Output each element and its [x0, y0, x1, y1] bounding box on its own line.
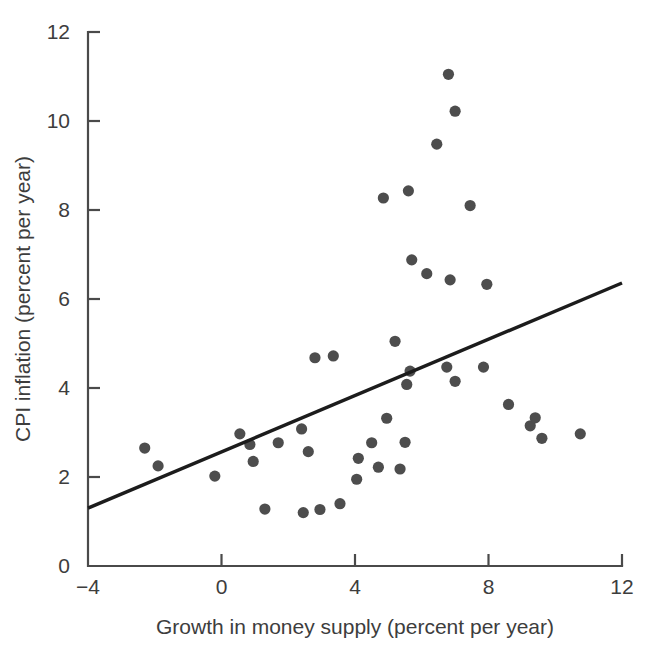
- data-point-40: [530, 412, 541, 423]
- data-point-20: [381, 413, 392, 424]
- y-tick-label-0: 0: [58, 554, 70, 577]
- data-point-0: [139, 442, 150, 453]
- data-point-2: [209, 471, 220, 482]
- data-point-5: [248, 456, 259, 467]
- y-tick-label-8: 8: [58, 198, 70, 221]
- x-tick-label-8: 8: [483, 575, 495, 598]
- data-point-30: [441, 361, 452, 372]
- data-point-10: [303, 446, 314, 457]
- data-point-28: [421, 268, 432, 279]
- data-points-group: [139, 69, 586, 519]
- data-point-15: [351, 474, 362, 485]
- data-point-41: [536, 433, 547, 444]
- data-point-6: [259, 503, 270, 514]
- x-tick-label-0: 0: [216, 575, 228, 598]
- y-axis-tick-labels: 024681012: [47, 20, 71, 577]
- data-point-12: [314, 504, 325, 515]
- data-point-24: [401, 379, 412, 390]
- data-point-1: [152, 460, 163, 471]
- data-point-22: [394, 463, 405, 474]
- data-point-11: [309, 352, 320, 363]
- data-point-38: [503, 399, 514, 410]
- data-point-13: [328, 350, 339, 361]
- data-point-19: [378, 192, 389, 203]
- data-point-21: [389, 336, 400, 347]
- x-tick-label--4: −4: [76, 575, 100, 598]
- y-axis-title: CPI inflation (percent per year): [11, 156, 34, 442]
- axis-lines: [88, 32, 622, 566]
- data-point-17: [366, 437, 377, 448]
- scatter-plot-figure: 024681012 −404812 CPI inflation (percent…: [0, 0, 649, 658]
- y-tick-label-10: 10: [47, 109, 70, 132]
- x-tick-label-12: 12: [610, 575, 633, 598]
- data-point-36: [478, 361, 489, 372]
- data-point-8: [296, 423, 307, 434]
- x-axis-title: Growth in money supply (percent per year…: [156, 615, 554, 638]
- data-point-37: [481, 279, 492, 290]
- data-point-14: [334, 498, 345, 509]
- data-point-35: [465, 200, 476, 211]
- y-axis-ticks: [88, 121, 100, 477]
- data-point-31: [443, 69, 454, 80]
- x-axis-ticks: [222, 554, 489, 566]
- x-tick-label-4: 4: [349, 575, 361, 598]
- data-point-3: [234, 428, 245, 439]
- data-point-34: [450, 376, 461, 387]
- x-axis-tick-labels: −404812: [76, 575, 634, 598]
- y-tick-label-6: 6: [58, 287, 70, 310]
- data-point-16: [353, 453, 364, 464]
- y-tick-label-2: 2: [58, 465, 70, 488]
- y-tick-label-4: 4: [58, 376, 70, 399]
- data-point-33: [450, 106, 461, 117]
- data-point-29: [431, 139, 442, 150]
- axis-spine: [88, 32, 622, 566]
- data-point-42: [575, 428, 586, 439]
- data-point-18: [373, 462, 384, 473]
- data-point-32: [445, 274, 456, 285]
- data-point-9: [298, 507, 309, 518]
- plot-canvas: 024681012 −404812 CPI inflation (percent…: [0, 0, 649, 658]
- data-point-25: [403, 185, 414, 196]
- y-tick-label-12: 12: [47, 20, 70, 43]
- data-point-7: [273, 437, 284, 448]
- data-point-27: [406, 254, 417, 265]
- data-point-23: [399, 437, 410, 448]
